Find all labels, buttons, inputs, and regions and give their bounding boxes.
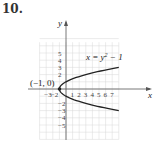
y-tick-label: −5 — [58, 122, 66, 130]
x-tick-label: 5 — [97, 91, 101, 99]
equation-label: x = y2 − 1 — [85, 52, 123, 62]
x-axis-label: x — [147, 90, 152, 100]
x-tick-label: 2 — [77, 91, 81, 99]
x-tick-label: 7 — [110, 91, 114, 99]
x-tick-label: 1 — [71, 91, 75, 99]
parabola-chart: x y −3−21234567 5432−2−3−4−5 (−1, 0) x =… — [0, 0, 161, 150]
y-axis-arrow-icon — [64, 20, 68, 26]
x-tick-label: 3 — [84, 91, 88, 99]
vertex-label: (−1, 0) — [30, 78, 55, 88]
y-axis-label: y — [57, 18, 62, 28]
x-tick-label: −2 — [51, 91, 59, 99]
x-tick-label: 6 — [104, 91, 108, 99]
x-tick-labels: −3−21234567 — [44, 91, 114, 99]
vertex-point — [58, 87, 62, 91]
y-tick-label: 2 — [58, 71, 62, 79]
x-tick-label: 4 — [90, 91, 94, 99]
